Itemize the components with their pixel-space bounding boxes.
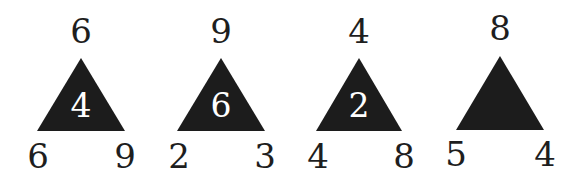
triangle-group-2: 9 6 2 3: [177, 0, 317, 186]
bottom-left-number: 4: [298, 139, 338, 173]
bottom-right-number: 4: [525, 137, 565, 171]
bottom-left-number: 5: [436, 137, 476, 171]
bottom-right-number: 9: [105, 139, 145, 173]
triangle-shape: [456, 56, 544, 130]
top-number: 9: [201, 14, 241, 48]
top-number: 8: [480, 11, 520, 45]
triangle-group-4: 8 5 4: [456, 0, 585, 186]
top-number: 4: [339, 14, 379, 48]
triangle-group-1: 6 4 6 9: [37, 0, 177, 186]
bottom-left-number: 6: [18, 139, 58, 173]
bottom-right-number: 8: [384, 139, 424, 173]
triangle-number-puzzle: 6 4 6 9 9 6 2 3 4 2 4 8 8 5 4: [0, 0, 585, 186]
bottom-right-number: 3: [245, 139, 285, 173]
center-number: 6: [201, 89, 241, 123]
top-number: 6: [61, 14, 101, 48]
center-number: 4: [61, 89, 101, 123]
bottom-left-number: 2: [159, 139, 199, 173]
center-number: 2: [339, 89, 379, 123]
triangle-group-3: 4 2 4 8: [316, 0, 456, 186]
